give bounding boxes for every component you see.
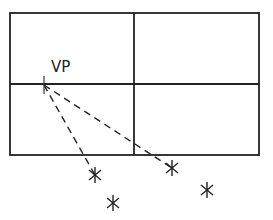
star-marker-icon — [89, 167, 101, 183]
vp-label: VP — [51, 58, 70, 76]
star-marker-icon — [107, 195, 119, 211]
frame-grid — [10, 13, 259, 155]
dashed-sightlines — [44, 85, 172, 175]
star-marker-icon — [166, 160, 178, 176]
star-marker-icon — [201, 182, 213, 198]
perspective-diagram — [0, 0, 273, 220]
star-markers — [89, 160, 213, 211]
sightline — [44, 85, 95, 175]
